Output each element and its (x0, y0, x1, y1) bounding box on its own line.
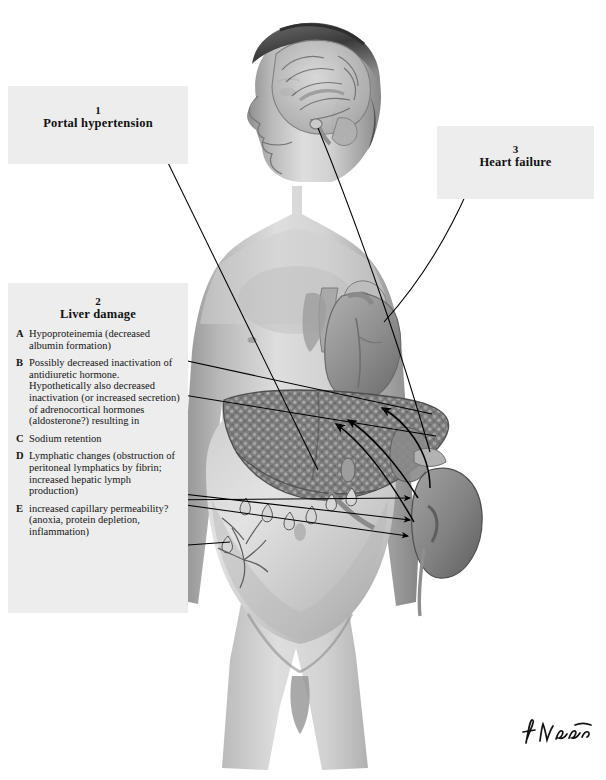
callout-title: Portal hypertension (8, 116, 188, 130)
item-letter: E (16, 503, 23, 515)
callout-title: Heart failure (437, 155, 594, 169)
leader-heart-failure (384, 190, 468, 322)
callout-heart-failure: 3 Heart failure (437, 126, 594, 199)
liver-item-c: C Sodium retention (16, 433, 180, 445)
liver-item-d: D Lymphatic changes (obstruction of peri… (16, 450, 180, 496)
item-text: Hypoproteinemia (decreased albumin forma… (29, 328, 180, 351)
artist-signature: F. Netter (520, 715, 594, 749)
pituitary-gland (310, 119, 322, 129)
callout-number: 2 (16, 295, 180, 307)
umbilicus (294, 523, 306, 541)
callout-portal-hypertension: 1 Portal hypertension (8, 86, 188, 164)
figure-page: 1 Portal hypertension 3 Heart failure 2 … (0, 0, 606, 780)
liver-item-a: A Hypoproteinemia (decreased albumin for… (16, 328, 180, 351)
gallbladder (341, 458, 355, 482)
callout-liver-damage: 2 Liver damage A Hypoproteinemia (decrea… (8, 283, 188, 613)
item-letter: A (16, 328, 24, 340)
head-profile (247, 23, 381, 182)
item-letter: C (16, 433, 24, 445)
liver-item-e: E increased capillary permeability? (ano… (16, 503, 180, 538)
callout-title: Liver damage (16, 307, 180, 321)
callout-number: 1 (8, 104, 188, 116)
callout-number: 3 (437, 143, 594, 155)
item-text: Lymphatic changes (obstruction of perito… (29, 450, 180, 496)
item-letter: B (16, 357, 23, 369)
item-letter: D (16, 450, 24, 462)
item-text: Possibly decreased inactivation of antid… (29, 357, 180, 427)
item-text: increased capillary permeability? (anoxi… (29, 503, 180, 538)
genitalia (290, 676, 309, 734)
liver-item-b: B Possibly decreased inactivation of ant… (16, 357, 180, 427)
item-text: Sodium retention (29, 433, 180, 445)
